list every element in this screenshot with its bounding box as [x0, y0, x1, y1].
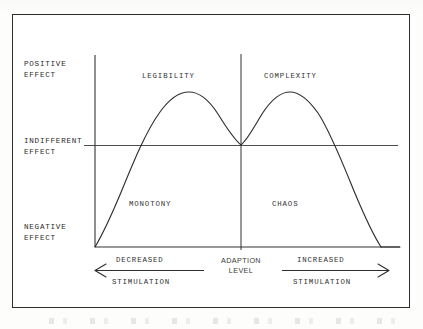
y-label-positive-effect-line1: POSITIVE [24, 60, 66, 68]
y-label-positive-effect: POSITIVEEFFECT [24, 59, 66, 80]
footer-left-bottom-label: STIMULATION [112, 278, 170, 286]
adaption-level-label: ADAPTIONLEVEL [207, 256, 275, 275]
region-label-complexity: COMPLEXITY [264, 72, 317, 80]
effect-curve [95, 92, 381, 247]
y-label-positive-effect-line2: EFFECT [24, 71, 56, 79]
adaption-level-label-line1: ADAPTION [221, 256, 261, 265]
footer-right-bottom-label: STIMULATION [293, 278, 351, 286]
adaption-level-label-line2: LEVEL [229, 266, 253, 275]
y-label-indifferent-effect: INDIFFERENTEFFECT [24, 136, 82, 157]
decreased-stimulation-arrow [95, 264, 204, 277]
region-label-legibility: LEGIBILITY [142, 72, 195, 80]
region-label-monotony: MONOTONY [129, 200, 171, 208]
y-label-indifferent-effect-line1: INDIFFERENT [24, 137, 82, 145]
y-label-indifferent-effect-line2: EFFECT [24, 148, 56, 156]
footer-right-top-label: INCREASED [297, 256, 345, 264]
footer-left-top-label: DECREASED [116, 256, 164, 264]
y-label-negative-effect: NEGATIVEEFFECT [24, 222, 66, 243]
region-label-chaos: CHAOS [272, 200, 298, 208]
diagram-canvas [0, 0, 423, 329]
y-label-negative-effect-line1: NEGATIVE [24, 223, 66, 231]
y-label-negative-effect-line2: EFFECT [24, 234, 56, 242]
increased-stimulation-arrow [282, 264, 389, 277]
scanned-page: POSITIVEEFFECT INDIFFERENTEFFECT NEGATIV… [0, 0, 423, 329]
